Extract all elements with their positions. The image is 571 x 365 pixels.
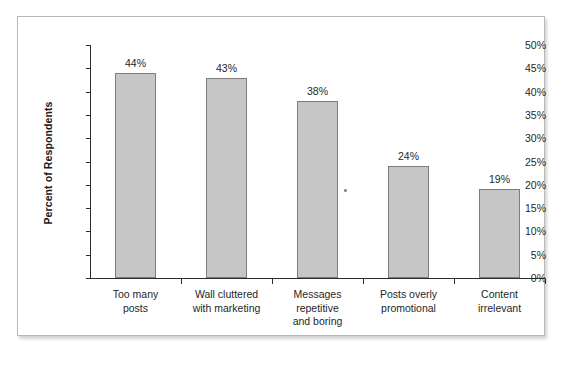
bar: [206, 78, 247, 278]
y-tick-label: 35%: [482, 109, 546, 121]
category-label-line: and boring: [272, 315, 363, 329]
y-tick-mark: [86, 185, 91, 186]
category-label-line: promotional: [363, 302, 454, 316]
y-tick-mark: [86, 255, 91, 256]
bar-value-label: 44%: [106, 57, 166, 69]
category-label-line: Messages: [272, 288, 363, 302]
x-tick-mark: [181, 279, 182, 284]
y-tick-mark: [86, 68, 91, 69]
bar: [388, 166, 429, 278]
x-tick-mark: [363, 279, 364, 284]
category-label: Posts overlypromotional: [363, 288, 454, 315]
bar: [479, 189, 520, 278]
category-label-line: Posts overly: [363, 288, 454, 302]
category-label-line: repetitive: [272, 302, 363, 316]
y-tick-label: 40%: [482, 86, 546, 98]
x-axis-line: [90, 278, 545, 279]
y-tick-mark: [86, 208, 91, 209]
x-tick-mark: [272, 279, 273, 284]
x-tick-mark: [454, 279, 455, 284]
y-tick-mark: [86, 231, 91, 232]
bar-value-label: 38%: [288, 85, 348, 97]
category-label-line: Content: [454, 288, 545, 302]
chart-frame: Percent of Respondents 50%45%40%35%30%25…: [17, 16, 545, 336]
bar-value-label: 43%: [197, 62, 257, 74]
y-tick-mark: [86, 92, 91, 93]
y-tick-mark: [86, 45, 91, 46]
bar-chart: Percent of Respondents 50%45%40%35%30%25…: [18, 17, 546, 337]
category-label-line: Wall cluttered: [181, 288, 272, 302]
category-label-line: irrelevant: [454, 302, 545, 316]
y-axis-title: Percent of Respondents: [42, 83, 54, 243]
bar-value-label: 24%: [379, 150, 439, 162]
scan-artifact-speck: [344, 189, 347, 192]
bar: [115, 73, 156, 278]
y-tick-label: 30%: [482, 132, 546, 144]
y-tick-label: 45%: [482, 62, 546, 74]
y-tick-mark: [86, 115, 91, 116]
y-tick-mark: [86, 278, 91, 279]
y-tick-mark: [86, 138, 91, 139]
y-tick-label: 25%: [482, 156, 546, 168]
bar: [297, 101, 338, 278]
chart-screenshot: Percent of Respondents 50%45%40%35%30%25…: [0, 0, 571, 365]
category-label-line: posts: [90, 302, 181, 316]
category-label: Wall clutteredwith marketing: [181, 288, 272, 315]
y-tick-mark: [86, 162, 91, 163]
category-label: Too manyposts: [90, 288, 181, 315]
bar-value-label: 19%: [470, 173, 530, 185]
category-label: Messagesrepetitiveand boring: [272, 288, 363, 329]
category-label-line: Too many: [90, 288, 181, 302]
y-tick-label: 50%: [482, 39, 546, 51]
category-label: Contentirrelevant: [454, 288, 545, 315]
x-tick-mark: [545, 279, 546, 284]
category-label-line: with marketing: [181, 302, 272, 316]
